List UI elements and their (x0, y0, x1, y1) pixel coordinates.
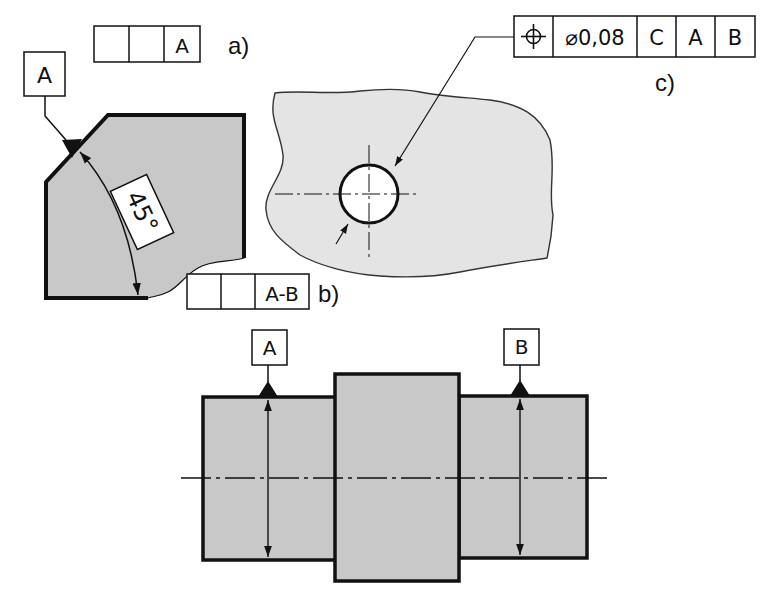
datum-a: A (688, 26, 703, 50)
shaft-datum-a: A (263, 336, 277, 360)
drawing-canvas: A a) A 45° A-B b) (0, 0, 779, 610)
figure-b-label: b) (318, 280, 339, 307)
datum-a-letter: A (37, 63, 52, 88)
chamfered-part: 45° (46, 115, 244, 298)
feature-control-frame-b: A-B (187, 274, 309, 309)
shaft-datum-b: B (515, 335, 529, 359)
frame-b-datum: A-B (265, 282, 298, 306)
figure-a-label: a) (228, 32, 249, 59)
datum-b: B (728, 26, 742, 50)
frame-a-datum: A (175, 34, 189, 58)
stepped-shaft: A B (181, 329, 608, 581)
datum-feature-a: A (24, 52, 66, 140)
datum-triangle-icon (510, 380, 530, 396)
tolerance-value: ⌀0,08 (565, 26, 624, 50)
figure-c-label: c) (655, 69, 675, 96)
feature-control-frame-a: A (94, 26, 200, 62)
plate-with-hole (266, 37, 553, 277)
datum-triangle-icon (258, 381, 278, 397)
feature-control-frame-c: ⌀0,08 C A B (514, 16, 755, 57)
datum-c: C (649, 26, 664, 50)
